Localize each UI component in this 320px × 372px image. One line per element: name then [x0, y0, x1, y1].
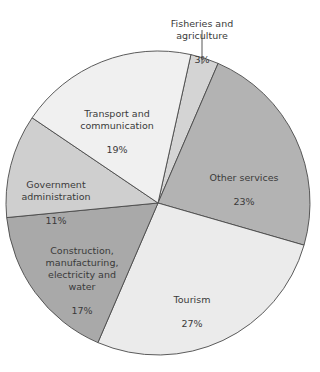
label-construction-text: Construction, manufacturing, electricity… [46, 245, 119, 292]
label-other-text: Other services [210, 172, 279, 183]
label-fisheries-pct: 3% [194, 54, 209, 65]
label-transport-text: Transport and communication [80, 108, 153, 131]
label-other-services: Other services 23% [210, 160, 279, 208]
label-transport-pct: 19% [106, 144, 127, 155]
label-government: Government administration 11% [21, 167, 90, 227]
label-tourism-text: Tourism [174, 294, 211, 305]
label-tourism: Tourism 27% [174, 282, 211, 330]
label-government-text: Government administration [21, 179, 90, 202]
label-tourism-pct: 27% [181, 318, 202, 329]
label-construction-pct: 17% [71, 305, 92, 316]
label-fisheries-text: Fisheries and agriculture [171, 18, 233, 41]
label-other-pct: 23% [233, 196, 254, 207]
label-construction: Construction, manufacturing, electricity… [46, 233, 119, 317]
label-government-pct: 11% [45, 215, 66, 226]
label-fisheries: Fisheries and agriculture 3% [146, 6, 258, 66]
label-transport: Transport and communication 19% [80, 96, 153, 156]
